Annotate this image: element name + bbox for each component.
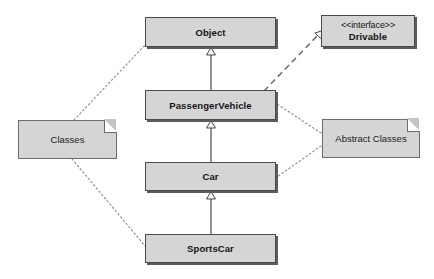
class-node-drivable[interactable]: <<interface>> Drivable [321, 15, 415, 47]
class-node-passengervehicle-label: PassengerVehicle [169, 100, 251, 111]
class-node-drivable-stereotype: <<interface>> [341, 20, 395, 31]
class-node-object[interactable]: Object [145, 17, 276, 47]
uml-class-diagram: Object <<interface>> Drivable PassengerV… [0, 0, 434, 279]
note-classes[interactable]: Classes [18, 120, 117, 159]
class-node-car[interactable]: Car [145, 162, 276, 191]
class-node-passengervehicle[interactable]: PassengerVehicle [145, 90, 276, 120]
note-abstract-classes[interactable]: Abstract Classes [322, 119, 420, 158]
class-node-drivable-label: Drivable [349, 31, 387, 42]
class-node-sportscar-label: SportsCar [187, 243, 234, 254]
note-classes-label: Classes [51, 134, 85, 146]
note-fold-corner-icon [104, 120, 117, 133]
note-abstract-classes-label: Abstract Classes [335, 133, 406, 145]
note-fold-corner-icon [407, 119, 420, 132]
class-node-car-label: Car [202, 171, 218, 182]
class-node-object-label: Object [195, 27, 225, 38]
node-layer: Object <<interface>> Drivable PassengerV… [0, 0, 434, 279]
class-node-sportscar[interactable]: SportsCar [145, 234, 276, 263]
